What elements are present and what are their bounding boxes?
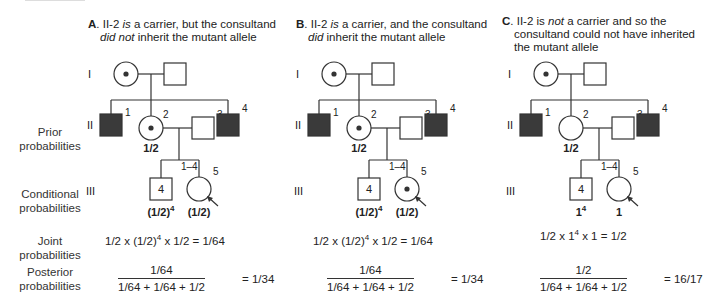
panel-a-generation-iii-label: III [86,185,95,197]
panel-a-iii-sibs-range: 1–4 [181,161,198,172]
panel-a-iii-5-consultand [187,177,211,201]
panel-b-generation-ii-label: II [295,119,301,131]
joint-text: 1/2 x (1/2) [105,235,157,247]
panel-a-posterior: 1/64 1/64 + 1/64 + 1/2 = 1/34 [118,264,205,293]
carrier-dot-icon [404,186,409,191]
carrier-dot-icon [148,125,153,130]
panel-a-conditional-siblings: (1/2)4 [147,204,175,218]
panel-a-ii-4-affected-male [217,114,239,136]
panel-a-ii-3-male [192,117,214,139]
panel-c-ii-4-number: 4 [662,103,668,114]
panel-a-joint: 1/2 x (1/2)4 x 1/2 = 1/64 [105,233,225,247]
carrier-dot-icon [356,125,361,130]
panel-c-iii-5-consultand [607,177,631,201]
posterior-denominator: 1/64 + 1/64 + 1/2 [540,278,627,293]
panel-c-posterior: 1/2 1/64 + 1/64 + 1/2 = 16/17 [540,264,627,293]
panel-c-iii-sibs-count: 4 [578,183,584,195]
panel-b-iii-5-number: 5 [421,166,427,177]
panel-a-generation-i-label: I [88,68,91,80]
panel-c-generation-iii-label: III [506,185,515,197]
posterior-numerator: 1/2 [540,264,627,278]
posterior-result: = 1/34 [451,273,483,285]
panel-a-ii-4-number: 4 [242,103,248,114]
panel-b-ii-2-number: 2 [371,109,377,120]
panel-b-joint: 1/2 x (1/2)4 x 1/2 = 1/64 [313,233,433,247]
panel-a-iii-sibs-count: 4 [158,183,164,195]
panel-c-ii-1-number: 1 [545,107,551,118]
panel-b-ii-4-affected-male [425,114,447,136]
panel-b-generation-i-label: I [296,68,299,80]
panel-b-i-2-male [372,63,394,85]
panel-c-joint: 1/2 x 14 x 1 = 1/2 [540,228,627,242]
panel-c-ii-3-male [612,117,634,139]
panel-b-posterior: 1/64 1/64 + 1/64 + 1/2 = 1/34 [327,264,414,293]
posterior-numerator: 1/64 [118,264,205,278]
joint-text: 1/2 x (1/2) [313,235,365,247]
panel-b-generation-iii-label: III [294,185,303,197]
panel-c-iii-5-number: 5 [633,166,639,177]
panel-b-ii-4-number: 4 [450,103,456,114]
panel-a-generation-ii-label: II [87,119,93,131]
pedigree-diagrams: IIIIII121/23441–45(1/2)4(1/2)IIIIII121/2… [0,0,705,303]
carrier-dot-icon [331,71,336,76]
panel-b-conditional-siblings: (1/2)4 [355,204,383,218]
joint-text: x 1/2 = 1/64 [369,235,433,247]
panel-a-prior-probability: 1/2 [143,142,158,154]
panel-b-ii-1-affected-male [308,114,330,136]
panel-c-conditional-siblings: 14 [576,204,587,218]
panel-a-ii-1-affected-male [100,114,122,136]
panel-b-iii-sibs-count: 4 [366,183,372,195]
panel-b-prior-probability: 1/2 [351,142,366,154]
panel-c-ii-1-affected-male [520,114,542,136]
carrier-dot-icon [543,71,548,76]
posterior-denominator: 1/64 + 1/64 + 1/2 [327,278,414,293]
posterior-result: = 16/17 [664,273,703,285]
posterior-numerator: 1/64 [327,264,414,278]
panel-c-iii-sibs-range: 1–4 [601,161,618,172]
carrier-dot-icon [123,71,128,76]
panel-a-iii-5-number: 5 [213,166,219,177]
joint-text: x 1/2 = 1/64 [161,235,225,247]
panel-c-prior-probability: 1/2 [563,142,578,154]
joint-text: x 1 = 1/2 [579,230,627,242]
panel-c-ii-2-female [559,116,583,140]
panel-c-i-2-male [584,63,606,85]
posterior-result: = 1/34 [242,273,274,285]
panel-b-ii-1-number: 1 [333,107,339,118]
panel-c-conditional-proband: 1 [616,206,622,218]
panel-c-generation-i-label: I [508,68,511,80]
panel-c-ii-4-affected-male [637,114,659,136]
panel-a-i-2-male [164,63,186,85]
joint-text: 1/2 x 1 [540,230,575,242]
panel-a-ii-1-number: 1 [125,107,131,118]
panel-b-ii-3-male [400,117,422,139]
panel-a-conditional-proband: (1/2) [188,206,211,218]
panel-c-generation-ii-label: II [507,119,513,131]
panel-c-ii-2-number: 2 [583,109,589,120]
posterior-denominator: 1/64 + 1/64 + 1/2 [118,278,205,293]
panel-b-iii-sibs-range: 1–4 [389,161,406,172]
panel-b-conditional-proband: (1/2) [396,206,419,218]
panel-a-ii-2-number: 2 [163,109,169,120]
